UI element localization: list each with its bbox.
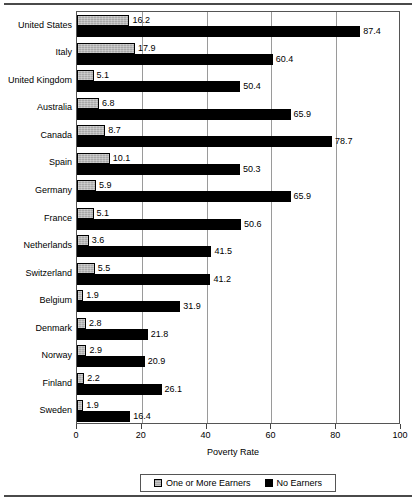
x-tick-80 (335, 424, 336, 429)
chart-legend: One or More Earners No Earners (140, 474, 336, 492)
legend-swatch-no-earners (265, 479, 273, 487)
category-label-australia: Australia (0, 102, 72, 112)
category-label-germany: Germany (0, 185, 72, 195)
bar-one-or-more-earners[interactable] (77, 235, 89, 246)
bar-group: 5.965.9 (77, 177, 399, 205)
bar-value-one-or-more-earners: 1.9 (86, 290, 99, 301)
bar-group: 5.150.4 (77, 67, 399, 95)
bar-no-earners[interactable] (77, 246, 211, 257)
bar-value-one-or-more-earners: 8.7 (108, 125, 121, 136)
bar-value-no-earners: 50.6 (244, 219, 262, 230)
bar-no-earners[interactable] (77, 356, 145, 367)
bar-one-or-more-earners[interactable] (77, 208, 94, 219)
bar-group: 5.150.6 (77, 205, 399, 233)
bar-value-one-or-more-earners: 16.2 (132, 15, 150, 26)
category-label-norway: Norway (0, 350, 72, 360)
category-axis-labels: United StatesItalyUnited KingdomAustrali… (0, 11, 72, 424)
legend-label-one-or-more-earners: One or More Earners (166, 478, 251, 489)
bar-no-earners[interactable] (77, 301, 180, 312)
bar-one-or-more-earners[interactable] (77, 263, 95, 274)
bar-value-no-earners: 31.9 (183, 301, 201, 312)
bar-value-no-earners: 20.9 (148, 356, 166, 367)
bar-group: 1.931.9 (77, 287, 399, 315)
bar-one-or-more-earners[interactable] (77, 70, 94, 81)
bar-no-earners[interactable] (77, 81, 240, 92)
bar-one-or-more-earners[interactable] (77, 318, 86, 329)
bar-value-one-or-more-earners: 10.1 (113, 153, 131, 164)
bar-value-no-earners: 78.7 (335, 136, 353, 147)
bar-no-earners[interactable] (77, 411, 130, 422)
bar-group: 2.226.1 (77, 370, 399, 398)
legend-swatch-one-or-more-earners (154, 479, 162, 487)
x-axis: 020406080100 (76, 424, 400, 446)
category-label-italy: Italy (0, 47, 72, 57)
bar-value-one-or-more-earners: 3.6 (92, 235, 105, 246)
bar-no-earners[interactable] (77, 54, 273, 65)
x-tick-label-60: 60 (265, 430, 275, 441)
bar-one-or-more-earners[interactable] (77, 373, 84, 384)
bar-value-no-earners: 87.4 (363, 26, 381, 37)
bar-no-earners[interactable] (77, 136, 332, 147)
category-label-united-kingdom: United Kingdom (0, 75, 72, 85)
bar-value-one-or-more-earners: 1.9 (86, 400, 99, 411)
bar-value-no-earners: 21.8 (151, 329, 169, 340)
bar-no-earners[interactable] (77, 384, 162, 395)
bar-value-one-or-more-earners: 6.8 (102, 98, 115, 109)
bar-group: 6.865.9 (77, 95, 399, 123)
bar-no-earners[interactable] (77, 219, 241, 230)
bar-value-no-earners: 41.5 (214, 246, 232, 257)
bar-group: 10.150.3 (77, 150, 399, 178)
bar-value-one-or-more-earners: 17.9 (138, 43, 156, 54)
x-tick-20 (141, 424, 142, 429)
bar-value-one-or-more-earners: 2.8 (89, 318, 102, 329)
bar-one-or-more-earners[interactable] (77, 180, 96, 191)
bar-group: 17.960.4 (77, 40, 399, 68)
bar-one-or-more-earners[interactable] (77, 98, 99, 109)
bar-value-no-earners: 41.2 (213, 274, 231, 285)
x-axis-title-text: Poverty Rate (207, 447, 259, 457)
category-label-switzerland: Switzerland (0, 268, 72, 278)
bar-group: 1.916.4 (77, 397, 399, 425)
category-label-spain: Spain (0, 157, 72, 167)
poverty-rate-bar-chart-figure: United StatesItalyUnited KingdomAustrali… (0, 0, 416, 502)
bar-no-earners[interactable] (77, 164, 240, 175)
bar-one-or-more-earners[interactable] (77, 290, 83, 301)
bar-value-no-earners: 16.4 (133, 411, 151, 422)
bar-no-earners[interactable] (77, 191, 291, 202)
category-label-france: France (0, 213, 72, 223)
bar-value-no-earners: 65.9 (294, 191, 312, 202)
bar-one-or-more-earners[interactable] (77, 43, 135, 54)
bar-one-or-more-earners[interactable] (77, 153, 110, 164)
bar-group: 3.641.5 (77, 232, 399, 260)
category-label-sweden: Sweden (0, 405, 72, 415)
category-label-finland: Finland (0, 378, 72, 388)
legend-label-no-earners: No Earners (277, 478, 323, 489)
bar-no-earners[interactable] (77, 26, 360, 37)
bar-one-or-more-earners[interactable] (77, 345, 86, 356)
x-axis-title: Poverty Rate (0, 446, 416, 458)
bar-group: 8.778.7 (77, 122, 399, 150)
x-tick-0 (76, 424, 77, 429)
top-divider-rule (4, 3, 412, 5)
bottom-divider-rule (4, 495, 412, 497)
bar-value-no-earners: 65.9 (294, 109, 312, 120)
bar-group: 2.920.9 (77, 342, 399, 370)
bar-value-one-or-more-earners: 5.5 (98, 263, 111, 274)
bar-value-one-or-more-earners: 5.9 (99, 180, 112, 191)
bar-no-earners[interactable] (77, 109, 291, 120)
bar-no-earners[interactable] (77, 329, 148, 340)
category-label-canada: Canada (0, 130, 72, 140)
x-tick-label-40: 40 (201, 430, 211, 441)
bar-value-one-or-more-earners: 5.1 (97, 70, 110, 81)
bar-group: 2.821.8 (77, 315, 399, 343)
bar-value-no-earners: 60.4 (276, 54, 294, 65)
bar-no-earners[interactable] (77, 274, 210, 285)
bar-one-or-more-earners[interactable] (77, 125, 105, 136)
x-tick-60 (270, 424, 271, 429)
plot-area: 16.287.417.960.45.150.46.865.98.778.710.… (76, 11, 400, 424)
x-tick-100 (400, 424, 401, 429)
bar-one-or-more-earners[interactable] (77, 15, 129, 26)
bar-one-or-more-earners[interactable] (77, 400, 83, 411)
category-label-united-states: United States (0, 20, 72, 30)
legend-item-no-earners: No Earners (265, 478, 323, 489)
